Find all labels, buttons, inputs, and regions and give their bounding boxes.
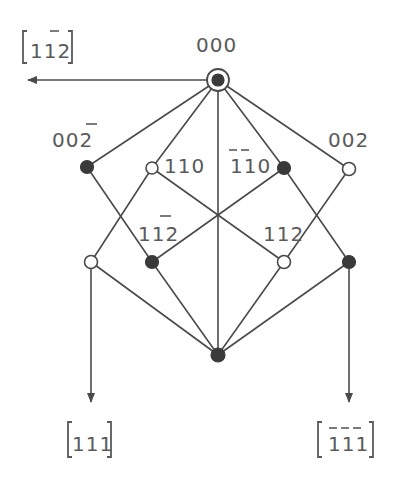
edge-left-open-bottom — [91, 262, 218, 355]
bracket-left-11-2 — [23, 31, 27, 63]
node-bottom — [211, 348, 225, 362]
edge-00-2-11-2 — [87, 167, 152, 262]
node--1-10 — [278, 162, 291, 175]
label-000: 000 — [196, 33, 237, 57]
node-right-filled — [343, 256, 356, 269]
label-dir-111: 111 — [72, 432, 113, 456]
bracket-left--1-1-1 — [318, 422, 322, 457]
edge-112-bottom — [218, 262, 284, 355]
lattice-diagram: 000 002 110 110 002 112 112 112 111 111 — [0, 0, 397, 498]
edges — [87, 80, 349, 355]
label-002: 002 — [328, 128, 369, 152]
labels: 000 002 110 110 002 112 112 112 111 111 — [23, 31, 373, 457]
node-11-2 — [146, 256, 159, 269]
label-dir-11-2: 112 — [30, 39, 71, 63]
label-110: 110 — [164, 154, 205, 178]
bracket-right--1-1-1 — [369, 422, 373, 457]
label-112: 112 — [263, 222, 304, 246]
label-00-2: 002 — [52, 128, 93, 152]
label-dir--1-1-1: 111 — [328, 432, 369, 456]
node-110 — [146, 162, 158, 174]
node-002 — [343, 163, 356, 176]
node-000 — [212, 74, 224, 86]
node-00-2 — [81, 161, 94, 174]
node-112 — [278, 256, 291, 269]
label-11-2: 112 — [138, 222, 179, 246]
edge-11-2-bottom — [152, 262, 218, 355]
node-left-open — [85, 256, 98, 269]
label--1-10: 110 — [230, 154, 271, 178]
edge-right-filled-bottom — [218, 262, 349, 355]
